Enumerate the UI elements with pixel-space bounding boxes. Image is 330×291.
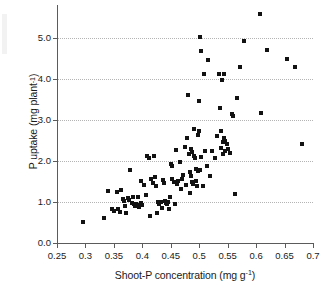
data-point — [258, 12, 262, 16]
gridline-y — [58, 79, 313, 80]
x-axis-title-tail: ) — [252, 269, 255, 281]
data-point — [139, 179, 143, 183]
data-point — [197, 129, 201, 133]
x-tick-mark — [285, 244, 286, 248]
data-point — [285, 57, 289, 61]
data-point — [233, 192, 237, 196]
x-tick-mark — [142, 244, 143, 248]
data-point — [192, 127, 196, 131]
data-point — [168, 195, 172, 199]
x-tick-mark — [256, 244, 257, 248]
data-point — [142, 183, 146, 187]
data-point — [210, 149, 214, 153]
data-point — [128, 168, 132, 172]
gridline-y — [58, 161, 313, 162]
data-point — [217, 72, 221, 76]
y-tick-label: 1.0 — [11, 196, 51, 207]
x-tick-mark — [85, 244, 86, 248]
y-tick-label: 0.0 — [11, 237, 51, 248]
data-point — [206, 58, 210, 62]
data-point — [162, 181, 166, 185]
data-point — [231, 114, 235, 118]
scan-edge-artifact — [2, 14, 7, 54]
data-point — [124, 211, 128, 215]
data-point — [265, 48, 269, 52]
data-point — [198, 35, 202, 39]
data-point — [199, 49, 203, 53]
data-point — [118, 210, 122, 214]
x-tick-mark — [199, 244, 200, 248]
data-point — [197, 99, 201, 103]
x-axis-line — [57, 243, 314, 244]
y-tick-mark — [53, 79, 57, 80]
data-point — [155, 211, 159, 215]
data-point — [178, 160, 182, 164]
data-point — [148, 214, 152, 218]
y-tick-label: 2.0 — [11, 155, 51, 166]
y-tick-label: 4.0 — [11, 73, 51, 84]
x-tick-mark — [57, 244, 58, 248]
data-point — [228, 151, 232, 155]
data-point — [81, 220, 85, 224]
x-tick-mark — [228, 244, 229, 248]
data-point — [166, 200, 170, 204]
data-point — [167, 207, 171, 211]
data-point — [199, 155, 203, 159]
data-point — [259, 111, 263, 115]
scatter-plot-figure: P uptake (mg plant-1) Shoot-P concentrat… — [0, 0, 330, 291]
data-point — [202, 72, 206, 76]
gridline-y — [58, 202, 313, 203]
data-point — [185, 136, 189, 140]
data-point — [131, 195, 135, 199]
data-point — [235, 96, 239, 100]
data-point — [219, 129, 223, 133]
y-tick-mark — [53, 202, 57, 203]
y-tick-label: 5.0 — [11, 32, 51, 43]
y-tick-mark — [53, 38, 57, 39]
data-point — [123, 204, 127, 208]
data-point — [183, 145, 187, 149]
gridline-y — [58, 38, 313, 39]
data-point — [222, 72, 226, 76]
y-axis-line — [57, 5, 58, 244]
data-point — [153, 175, 157, 179]
data-point — [193, 156, 197, 160]
y-tick-label: 3.0 — [11, 114, 51, 125]
data-point — [184, 183, 188, 187]
data-point — [201, 184, 205, 188]
data-point — [147, 156, 151, 160]
data-point — [194, 179, 198, 183]
data-point — [238, 65, 242, 69]
data-point — [189, 174, 193, 178]
data-point — [225, 142, 229, 146]
data-point — [186, 93, 190, 97]
x-tick-mark — [114, 244, 115, 248]
data-point — [215, 134, 219, 138]
data-point — [173, 202, 177, 206]
data-point — [293, 65, 297, 69]
data-point — [152, 154, 156, 158]
x-axis-title-text: Shoot-P concentration (mg g — [115, 269, 246, 281]
data-point — [218, 106, 222, 110]
gridline-y — [58, 120, 313, 121]
x-tick-mark — [313, 244, 314, 248]
data-point — [102, 216, 106, 220]
data-point — [208, 174, 212, 178]
data-point — [136, 195, 140, 199]
data-point — [115, 190, 119, 194]
data-point — [220, 78, 224, 82]
x-axis-title: Shoot-P concentration (mg g-1) — [57, 269, 313, 281]
data-point — [119, 188, 123, 192]
data-point — [242, 39, 246, 43]
data-point — [140, 203, 144, 207]
data-point — [154, 184, 158, 188]
data-point — [196, 133, 200, 137]
data-point — [106, 189, 110, 193]
data-point — [213, 156, 217, 160]
data-point — [181, 173, 185, 177]
data-point — [180, 177, 184, 181]
data-point — [198, 168, 202, 172]
x-tick-label: 0.7 — [293, 250, 330, 261]
plot-area: 0.01.02.03.04.05.0 0.250.30.350.40.450.5… — [57, 5, 313, 243]
data-point — [144, 193, 148, 197]
